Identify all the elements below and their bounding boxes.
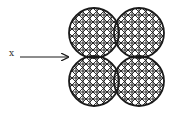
diagram-figure	[0, 0, 172, 116]
